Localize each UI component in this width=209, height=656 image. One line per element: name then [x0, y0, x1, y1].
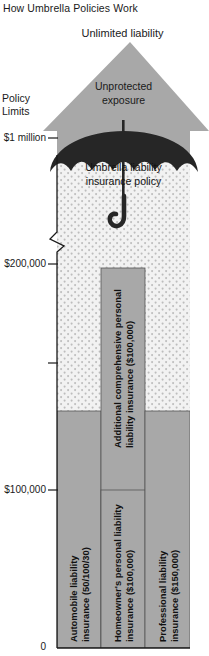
bar-label-homeowners-line2: insurance ($100,000) — [124, 494, 136, 642]
unprotected-line2: exposure — [57, 94, 190, 108]
bar-label-homeowners-line1: Homeowner's personal liability — [112, 494, 124, 642]
bar-label-additional-comprehensive: Additional comprehensive personal liabil… — [112, 270, 135, 448]
bar-label-automobile-line1: Automobile liability — [68, 417, 80, 642]
bar-label-additional-line2: liability insurance ($100,000) — [124, 270, 136, 448]
bar-label-professional: Professional liability insurance ($150,0… — [157, 417, 180, 642]
ytick-label-zero: 0 — [0, 641, 46, 652]
ytick-label-200000: $200,000 — [0, 258, 46, 269]
bar-label-professional-line1: Professional liability — [157, 417, 169, 642]
ytick-label-1-million: $1 million — [0, 132, 46, 143]
unprotected-exposure-label: Unprotected exposure — [57, 80, 190, 107]
bar-label-additional-line1: Additional comprehensive personal — [112, 270, 124, 448]
umbrella-line1: Umbrella liability — [57, 161, 190, 175]
bar-label-homeowners: Homeowner's personal liability insurance… — [112, 494, 135, 642]
bar-label-automobile-line2: insurance (50/100/30) — [80, 417, 92, 642]
bar-label-automobile: Automobile liability insurance (50/100/3… — [68, 417, 91, 642]
unprotected-line1: Unprotected — [57, 80, 190, 94]
bar-label-professional-line2: insurance ($150,000) — [169, 417, 181, 642]
umbrella-policy-label: Umbrella liability insurance policy — [57, 161, 190, 188]
ytick-label-100000: $100,000 — [0, 484, 46, 495]
umbrella-policy-infographic: How Umbrella Policies Work Unlimited lia… — [0, 0, 209, 656]
umbrella-line2: insurance policy — [57, 175, 190, 189]
